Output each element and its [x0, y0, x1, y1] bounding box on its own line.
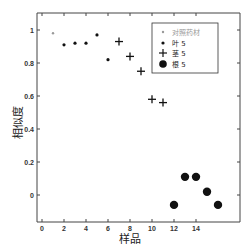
data-point — [73, 42, 76, 45]
x-tick-label: 6 — [106, 225, 110, 232]
y-tick-label: 1 — [30, 27, 34, 34]
legend-ref-marker-icon — [162, 31, 164, 33]
data-point — [106, 58, 109, 61]
data-point — [214, 201, 222, 209]
y-tick-label: 0.4 — [24, 126, 34, 133]
data-point — [203, 188, 211, 196]
x-tick-label: 14 — [192, 225, 200, 232]
data-point — [62, 43, 65, 46]
legend-root-marker-icon — [159, 60, 167, 68]
legend-label-ref: 对照药材 — [172, 28, 200, 37]
data-point — [159, 99, 167, 107]
data-point — [181, 173, 189, 181]
y-tick-label: 0.8 — [24, 60, 34, 67]
legend-label-leaf: 叶 5 — [172, 39, 186, 48]
y-tick-label: 0 — [30, 192, 34, 199]
legend-label-stem: 茎 5 — [172, 49, 186, 58]
x-tick-label: 0 — [40, 225, 44, 232]
data-point — [52, 32, 54, 34]
x-axis-title: 样品 — [119, 232, 141, 246]
x-tick-label: 4 — [84, 225, 88, 232]
legend-label-root: 根 5 — [172, 60, 186, 69]
y-axis-title: 相似度 — [11, 106, 25, 139]
x-tick-label: 10 — [148, 225, 156, 232]
data-point — [126, 52, 134, 60]
scatter-chart: 02468101214 00.20.40.60.81 样品 相似度 对照药材 叶… — [0, 0, 248, 250]
x-tick-label: 2 — [62, 225, 66, 232]
x-tick-label: 12 — [170, 225, 178, 232]
legend: 对照药材 叶 5 茎 5 根 5 — [152, 23, 218, 73]
data-point — [170, 201, 178, 209]
data-point — [95, 33, 98, 36]
data-point — [192, 173, 200, 181]
data-point — [115, 38, 123, 46]
y-tick-label: 0.2 — [24, 159, 34, 166]
data-point — [137, 67, 145, 75]
x-tick-label: 8 — [128, 225, 132, 232]
y-tick-label: 0.6 — [24, 93, 34, 100]
legend-leaf-marker-icon — [161, 41, 164, 44]
data-point — [84, 42, 87, 45]
data-point — [148, 95, 156, 103]
